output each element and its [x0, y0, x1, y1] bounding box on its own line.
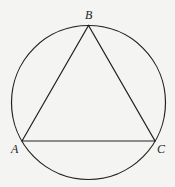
- circumcircle: [12, 26, 166, 180]
- triangle-abc: [22, 26, 155, 142]
- label-b: B: [85, 8, 93, 22]
- diagram-canvas: B A C: [0, 0, 175, 187]
- label-a: A: [10, 142, 19, 156]
- label-c: C: [157, 142, 166, 156]
